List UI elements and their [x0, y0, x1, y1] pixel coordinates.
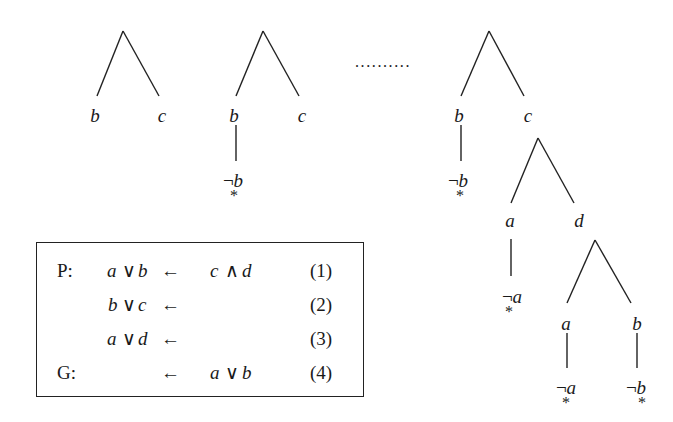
clause-row-4: G: ← a ∨ b (4) [37, 360, 363, 386]
tree1-leaf-c: c [158, 106, 166, 125]
clause-prefix: G: [57, 360, 76, 386]
tree2-leaf-b: b [229, 106, 239, 125]
arrow-symbol: ← [161, 292, 180, 318]
tree1-leaf-b: b [90, 106, 100, 125]
tree3-node-d-a: a [561, 314, 571, 333]
head-literal-2: c [138, 292, 146, 318]
body-operator: ∧ [225, 258, 239, 284]
ellipsis-dots: .......... [355, 53, 411, 71]
clause-number: (4) [310, 360, 332, 386]
clause-number: (1) [310, 258, 332, 284]
arrow-symbol: ← [161, 326, 180, 352]
program-clauses-box: P: a ∨ b ← c ∧ d (1) b ∨ c ← (2) a ∨ d ←… [36, 242, 364, 397]
head-literal-2: b [138, 258, 148, 284]
head-literal-1: a [107, 326, 117, 352]
clause-row-1: P: a ∨ b ← c ∧ d (1) [37, 258, 363, 284]
tree3-node-a: a [505, 211, 515, 230]
clause-number: (3) [310, 326, 332, 352]
closed-branch-mark: * [638, 395, 646, 411]
tree3-node-d-b: b [632, 314, 642, 333]
head-literal-2: d [138, 326, 148, 352]
closed-branch-mark: * [505, 304, 513, 320]
clause-row-3: a ∨ d ← (3) [37, 326, 363, 352]
literal: a [513, 286, 523, 307]
head-literal-1: a [107, 258, 117, 284]
head-operator: ∨ [122, 326, 136, 352]
arrow-symbol: ← [161, 258, 180, 284]
body-literal-2: d [242, 258, 252, 284]
closed-branch-mark: * [562, 395, 570, 411]
clause-number: (2) [310, 292, 332, 318]
clause-prefix: P: [57, 258, 73, 284]
closed-branch-mark: * [456, 188, 464, 204]
tree2-leaf-c: c [298, 106, 306, 125]
head-operator: ∨ [122, 292, 136, 318]
head-literal-1: b [108, 292, 118, 318]
body-literal-2: b [242, 360, 252, 386]
body-literal-1: a [210, 360, 220, 386]
negation-symbol: ¬ [626, 377, 637, 398]
body-literal-1: c [210, 258, 218, 284]
tree3-node-d: d [574, 211, 584, 230]
body-operator: ∨ [225, 360, 239, 386]
closed-branch-mark: * [230, 188, 238, 204]
head-operator: ∨ [122, 258, 136, 284]
arrow-symbol: ← [161, 360, 180, 386]
tree3-leaf-b: b [454, 106, 464, 125]
tree3-leaf-c: c [524, 106, 532, 125]
clause-row-2: b ∨ c ← (2) [37, 292, 363, 318]
